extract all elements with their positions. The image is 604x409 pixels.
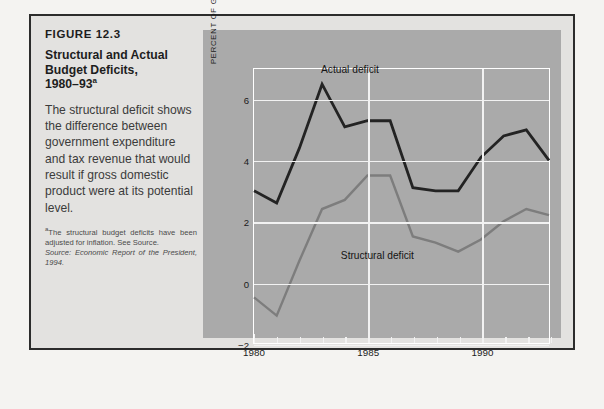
caption-column: FIGURE 12.3 Structural and Actual Budget… (45, 28, 197, 338)
x-tick-minor (277, 337, 278, 343)
figure-source: Source: Economic Report of the President… (45, 248, 197, 268)
gridline-y (254, 345, 549, 346)
x-tick-minor (460, 337, 461, 343)
gridline-x (482, 69, 483, 343)
x-tick-minor (551, 337, 552, 343)
x-tick-label: 1990 (472, 347, 494, 358)
y-tick-label: 2 (244, 217, 249, 228)
y-tick-label: 4 (244, 156, 249, 167)
series-line-actual-deficit (254, 84, 549, 203)
figure-footnote: aThe structural budget deficits have bee… (45, 228, 197, 248)
series-label-actual-deficit: Actual deficit (321, 64, 379, 75)
x-tick-minor (391, 337, 392, 343)
series-svg (254, 69, 549, 343)
y-tick-label: 0 (244, 278, 249, 289)
figure-title-line-1: Structural and Actual (45, 48, 168, 62)
figure-title-line-2: Budget Deficits, (45, 63, 138, 77)
source-label: Source: (45, 248, 71, 257)
x-tick-minor (300, 337, 301, 343)
y-tick-label: 6 (244, 94, 249, 105)
plot-area: 6420−2198019851990Actual deficitStructur… (253, 68, 550, 344)
gridline-y (254, 222, 549, 223)
x-tick-minor (505, 337, 506, 343)
figure-title-footnote-marker: a (92, 76, 96, 85)
x-tick-label: 1985 (357, 347, 379, 358)
figure-caption-text: The structural deficit shows the differe… (45, 102, 197, 216)
gridline-y (254, 284, 549, 285)
x-tick-minor (414, 337, 415, 343)
x-tick-minor (528, 337, 529, 343)
x-tick-label: 1980 (243, 347, 265, 358)
figure-title: Structural and Actual Budget Deficits, 1… (45, 48, 197, 92)
page-root: FIGURE 12.3 Structural and Actual Budget… (0, 0, 604, 409)
gridline-x (368, 69, 369, 343)
series-line-structural-deficit (254, 176, 549, 316)
gridline-y (254, 161, 549, 162)
series-label-structural-deficit: Structural deficit (341, 249, 414, 260)
chart-panel: PERCENT OF GDP 6420−2198019851990Actual … (203, 30, 561, 338)
x-tick-minor (437, 337, 438, 343)
figure-frame: FIGURE 12.3 Structural and Actual Budget… (29, 14, 575, 350)
gridline-y (254, 100, 549, 101)
x-tick-minor (345, 337, 346, 343)
y-axis-title: PERCENT OF GDP (209, 0, 218, 64)
figure-number: FIGURE 12.3 (45, 28, 197, 40)
footnote-text: The structural budget deficits have been… (45, 228, 197, 247)
x-tick-minor (323, 337, 324, 343)
x-tick-major (254, 334, 255, 343)
figure-title-line-3: 1980–93 (45, 77, 92, 91)
